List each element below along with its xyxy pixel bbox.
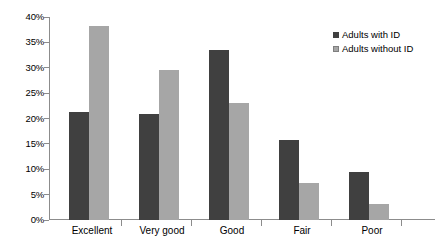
y-axis-tick: 40% [0, 11, 54, 23]
y-axis-tick-label: 35% [0, 36, 44, 48]
y-axis-tick-mark [44, 118, 49, 119]
y-axis-tick-mark [44, 169, 49, 170]
bar [369, 204, 389, 220]
bar [229, 103, 249, 220]
x-axis-label: Poor [327, 224, 417, 238]
y-axis-tick: 15% [0, 138, 54, 150]
bar [139, 114, 159, 220]
y-axis-tick: 20% [0, 113, 54, 125]
bar [69, 112, 89, 220]
chart-legend: Adults with IDAdults without ID [333, 28, 413, 56]
bar-group [57, 17, 127, 220]
y-axis-tick-mark [44, 17, 49, 18]
legend-item: Adults with ID [333, 28, 413, 41]
y-axis-tick: 0% [0, 214, 54, 226]
y-axis-tick-label: 10% [0, 163, 44, 175]
bar [349, 172, 369, 220]
y-axis-tick-label: 30% [0, 62, 44, 74]
legend-label: Adults without ID [342, 42, 413, 55]
y-axis-tick-label: 25% [0, 87, 44, 99]
y-axis-tick-mark [44, 67, 49, 68]
legend-swatch-icon [333, 46, 339, 52]
y-axis-tick-mark [44, 42, 49, 43]
y-axis-tick-label: 0% [0, 214, 44, 226]
y-axis-tick: 35% [0, 36, 54, 48]
y-axis-tick: 5% [0, 189, 54, 201]
y-axis-tick-mark [44, 143, 49, 144]
legend-label: Adults with ID [342, 28, 400, 41]
y-axis-tick: 10% [0, 163, 54, 175]
bar-group [127, 17, 197, 220]
legend-swatch-icon [333, 32, 339, 38]
bar [299, 183, 319, 220]
y-axis-tick-mark [44, 93, 49, 94]
y-axis-tick: 25% [0, 87, 54, 99]
bar-chart: 0%5%10%15%20%25%30%35%40% ExcellentVery … [0, 0, 441, 248]
bar-group [197, 17, 267, 220]
bar [279, 140, 299, 220]
bar-group [267, 17, 337, 220]
y-axis-tick-label: 40% [0, 11, 44, 23]
legend-item: Adults without ID [333, 42, 413, 55]
bar [159, 70, 179, 220]
y-axis-tick-mark [44, 194, 49, 195]
y-axis-tick-label: 20% [0, 113, 44, 125]
y-axis-tick-label: 15% [0, 138, 44, 150]
bar [209, 50, 229, 220]
y-axis-tick-label: 5% [0, 189, 44, 201]
y-axis-tick: 30% [0, 62, 54, 74]
bar [89, 26, 109, 220]
